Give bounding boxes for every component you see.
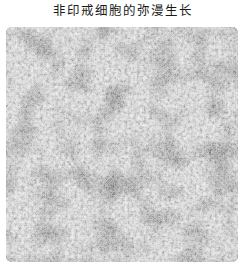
micrograph-texture (6, 27, 238, 262)
figure-title: 非印戒细胞的弥漫生长 (0, 3, 245, 19)
histology-micrograph (6, 27, 238, 262)
